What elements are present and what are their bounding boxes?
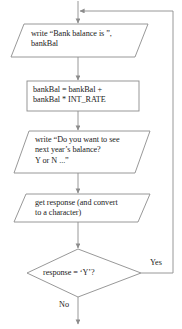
io-prompt-continue-label: write “Do you want to see next year’s ba… [35, 135, 119, 166]
io-write-balance-label: write “Bank balance is ”, bankBal [31, 29, 112, 50]
process-interest-label: bankBal = bankBal + bankBal * INT_RATE [33, 85, 106, 106]
flowchart-diagram: write “Bank balance is ”, bankBal bankBa… [0, 0, 182, 329]
edge-label-yes: Yes [150, 258, 162, 267]
io-get-response-label: get response (and convert to a character… [35, 198, 118, 219]
edge-label-no: No [59, 300, 69, 309]
decision-response-label: response = ‘Y’? [43, 268, 95, 278]
